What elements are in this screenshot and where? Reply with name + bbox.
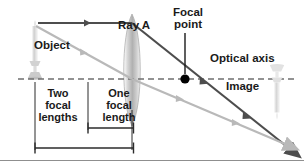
one-focal-length-line2: focal xyxy=(94,100,144,112)
two-focal-lengths-rule xyxy=(35,143,134,154)
focal-point-dot xyxy=(180,74,189,83)
focal-point-label-line1: Focal xyxy=(173,6,203,18)
image-label: Image xyxy=(226,80,259,92)
two-focal-lengths-line3: lengths xyxy=(30,112,86,124)
focal-point-label-line2: point xyxy=(173,18,203,30)
focal-point-label: Focal point xyxy=(173,6,203,31)
one-focal-length-rule xyxy=(88,123,134,134)
one-focal-length-line3: length xyxy=(94,112,144,124)
optical-axis-label: Optical axis xyxy=(210,52,275,64)
one-focal-length-label: One focal length xyxy=(94,88,144,124)
two-focal-lengths-line2: focal xyxy=(30,100,86,112)
object-label: Object xyxy=(34,39,70,51)
ray-diagram-figure: Ray A Object Focal point Optical axis Im… xyxy=(0,0,304,162)
ray-a-label: Ray A xyxy=(118,19,150,31)
image-candle-inverted xyxy=(270,64,284,120)
two-focal-lengths-label: Two focal lengths xyxy=(30,88,86,124)
